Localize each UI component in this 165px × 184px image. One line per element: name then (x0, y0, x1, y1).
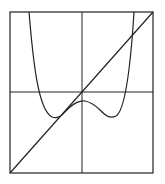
plot (0, 0, 165, 184)
